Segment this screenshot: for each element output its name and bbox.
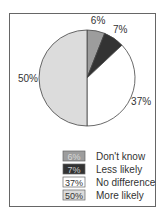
slice-label-no-difference: 37% [131, 96, 151, 107]
slice-label-don-t-know: 6% [91, 15, 106, 26]
legend-swatch-value-don-t-know: 6% [67, 152, 80, 162]
legend-label-more-likely: More likely [96, 190, 144, 201]
legend-swatch-value-no-difference: 37% [65, 178, 83, 188]
slice-label-more-likely: 50% [18, 73, 38, 84]
legend-label-don-t-know: Don't know [96, 151, 146, 162]
legend-label-no-difference: No difference [96, 177, 156, 188]
legend: 6%Don't know7%Less likely37%No differenc… [63, 151, 156, 201]
pie-slice-more-likely [39, 30, 87, 126]
legend-swatch-value-less-likely: 7% [67, 165, 80, 175]
pie-chart: 6%7%37%50% 6%Don't know7%Less likely37%N… [0, 0, 168, 221]
legend-label-less-likely: Less likely [96, 164, 142, 175]
slice-label-less-likely: 7% [113, 24, 128, 35]
legend-swatch-value-more-likely: 50% [65, 191, 83, 201]
